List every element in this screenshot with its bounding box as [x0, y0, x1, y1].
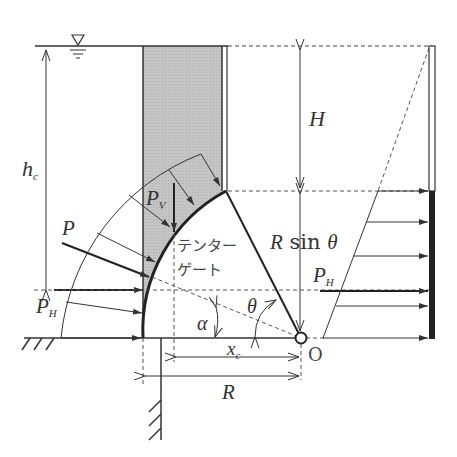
label-R: R	[222, 382, 235, 403]
ground-hatch-left	[22, 338, 54, 350]
label-tainter-gate-line1: テンター	[177, 239, 237, 254]
label-PH-left: PH	[36, 296, 57, 317]
gate-arm	[226, 191, 301, 338]
label-R-sin-theta: R sin θ	[270, 232, 338, 253]
label-P: P	[62, 218, 75, 239]
label-alpha: α	[197, 313, 208, 333]
right-wall-upper	[429, 46, 435, 191]
label-tainter-gate-line2: ゲート	[177, 263, 222, 278]
label-H: H	[309, 108, 325, 130]
alpha-angle-arc	[215, 307, 218, 337]
pressure-arrows-right	[323, 191, 428, 338]
resultant-force-P	[62, 243, 149, 277]
label-PH-right: PH	[313, 265, 334, 286]
ground-hatch-bottom	[149, 400, 161, 440]
right-diagram-dashed-slope	[378, 48, 429, 191]
label-hc: hc	[22, 158, 38, 180]
theta-angle-arc	[255, 300, 276, 337]
pivot-point-O	[296, 333, 307, 344]
right-wall-lower	[429, 191, 435, 339]
label-theta: θ	[247, 296, 257, 316]
label-Pv: PV	[146, 188, 166, 209]
label-O: O	[308, 346, 323, 364]
label-xc: xc	[227, 339, 240, 358]
